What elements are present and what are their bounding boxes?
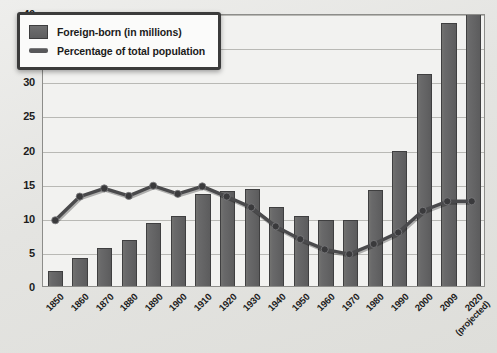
bar <box>318 220 333 286</box>
bar <box>392 151 407 286</box>
y-axis-tick-label: 0 <box>29 281 35 293</box>
legend-label-percentage: Percentage of total population <box>57 45 205 57</box>
legend-label-foreign-born: Foreign-born (in millions) <box>57 26 182 38</box>
chart-legend: Foreign-born (in millions) Percentage of… <box>17 12 221 70</box>
legend-item-foreign-born: Foreign-born (in millions) <box>29 22 205 41</box>
y-axis-tick-label: 10 <box>23 213 35 225</box>
bar-swatch-icon <box>29 25 48 39</box>
bar <box>466 14 481 286</box>
foreign-born-population-chart: 0510152025303540 18501860187018801890190… <box>0 0 497 353</box>
y-axis-tick-label: 20 <box>23 145 35 157</box>
y-axis-tick-label: 5 <box>29 247 35 259</box>
y-axis-tick-label: 30 <box>23 76 35 88</box>
bar <box>245 189 260 286</box>
bar <box>195 194 210 286</box>
line-shadow <box>56 187 473 255</box>
legend-item-percentage: Percentage of total population <box>29 41 205 60</box>
bar <box>48 271 63 286</box>
line-marker <box>125 192 132 199</box>
bar <box>72 258 87 286</box>
bar <box>122 240 137 286</box>
bar <box>146 223 161 286</box>
bar <box>343 220 358 286</box>
bar <box>97 248 112 286</box>
y-axis-tick-label: 25 <box>23 110 35 122</box>
bar <box>417 74 432 286</box>
bar <box>220 191 235 286</box>
line-marker <box>76 193 83 200</box>
line-swatch-icon <box>29 48 48 53</box>
bar <box>294 216 309 286</box>
bar <box>441 23 456 286</box>
bar <box>269 207 284 286</box>
bar <box>368 190 383 286</box>
y-axis-tick-label: 15 <box>23 179 35 191</box>
x-axis: 1850186018701880189019001910192019301940… <box>42 289 485 353</box>
line-marker <box>174 190 181 197</box>
bar <box>171 216 186 286</box>
